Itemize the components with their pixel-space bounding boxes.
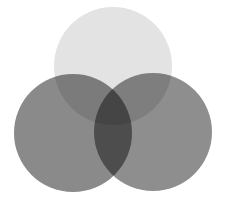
right-circle [94, 73, 212, 191]
venn-diagram [0, 0, 228, 202]
